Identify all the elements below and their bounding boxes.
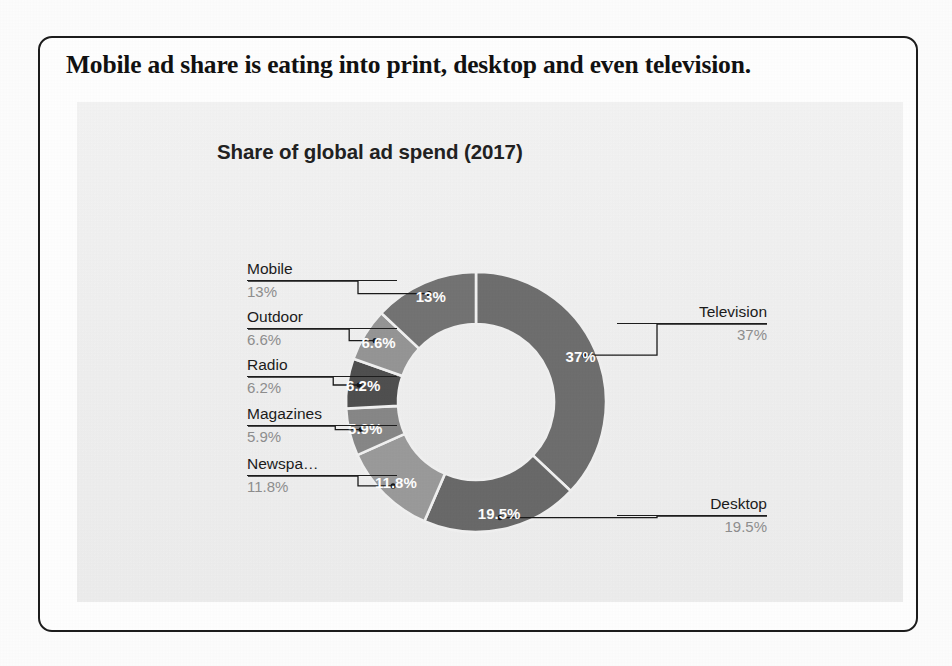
callout-desktop[interactable]: Desktop 19.5% (617, 494, 767, 537)
callout-newspapers-name: Newspa… (247, 454, 397, 473)
callout-mobile-rule (247, 280, 397, 281)
slice-value-television: 37% (566, 348, 596, 365)
callout-television-value: 37% (617, 325, 767, 345)
callout-desktop-name: Desktop (617, 494, 767, 513)
callout-desktop-value: 19.5% (617, 517, 767, 537)
callout-magazines[interactable]: Magazines 5.9% (247, 404, 397, 447)
callout-newspapers-rule (247, 475, 397, 476)
callout-television-rule (617, 323, 767, 324)
callout-radio[interactable]: Radio 6.2% (247, 355, 397, 398)
callout-newspapers[interactable]: Newspa… 11.8% (247, 454, 397, 497)
callout-newspapers-value: 11.8% (247, 477, 397, 497)
headline-text: Mobile ad share is eating into print, de… (66, 50, 902, 80)
chart-panel: Share of global ad spend (2017) 37%19.5%… (77, 102, 903, 602)
callout-mobile-name: Mobile (247, 259, 397, 278)
callout-radio-rule (247, 376, 397, 377)
callout-magazines-name: Magazines (247, 404, 397, 423)
callout-magazines-rule (247, 425, 397, 426)
callout-outdoor-name: Outdoor (247, 307, 397, 326)
donut-svg: 37%19.5%11.8%5.9%6.2%6.6%13% (77, 102, 903, 602)
callout-outdoor-value: 6.6% (247, 330, 397, 350)
callout-radio-name: Radio (247, 355, 397, 374)
callout-outdoor-rule (247, 328, 397, 329)
callout-television-name: Television (617, 302, 767, 321)
callout-television[interactable]: Television 37% (617, 302, 767, 345)
callout-magazines-value: 5.9% (247, 427, 397, 447)
slice-value-mobile: 13% (416, 288, 446, 305)
callout-mobile[interactable]: Mobile 13% (247, 259, 397, 302)
callout-desktop-rule (617, 515, 767, 516)
callout-mobile-value: 13% (247, 282, 397, 302)
donut-chart: 37%19.5%11.8%5.9%6.2%6.6%13% (77, 102, 903, 602)
chart-card: Mobile ad share is eating into print, de… (38, 36, 918, 632)
slice-value-desktop: 19.5% (478, 505, 521, 522)
callout-radio-value: 6.2% (247, 378, 397, 398)
donut-slice-television[interactable] (476, 272, 606, 491)
callout-outdoor[interactable]: Outdoor 6.6% (247, 307, 397, 350)
